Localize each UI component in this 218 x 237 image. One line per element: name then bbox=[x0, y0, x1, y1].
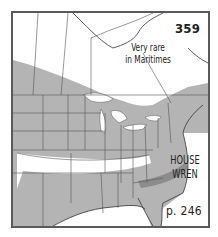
range-note-line-2: in Maritimes bbox=[119, 54, 176, 66]
species-name-line-1: HOUSE bbox=[165, 153, 205, 167]
species-name-line-2: WREN bbox=[165, 167, 205, 181]
range-note-line-1: Very rare bbox=[119, 42, 176, 54]
map-number: 359 bbox=[175, 21, 200, 36]
range-note: Very rare in Maritimes bbox=[119, 42, 176, 66]
species-name: HOUSE WREN bbox=[165, 153, 205, 181]
range-map bbox=[13, 13, 208, 226]
range-map-frame: 359 Very rare in Maritimes HOUSE WREN p.… bbox=[11, 11, 210, 228]
page-reference: p. 246 bbox=[166, 204, 202, 218]
